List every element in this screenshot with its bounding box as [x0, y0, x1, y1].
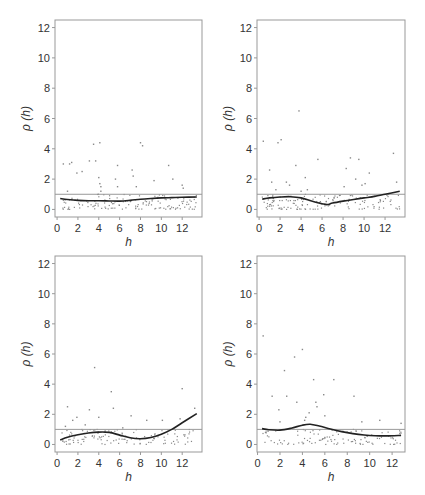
data-point [93, 144, 94, 145]
data-point [362, 201, 363, 202]
plot-frame [257, 256, 405, 452]
data-point [146, 201, 147, 202]
data-point [367, 206, 368, 207]
data-point [355, 178, 356, 179]
data-point [286, 181, 287, 182]
data-point [387, 196, 388, 197]
data-point [184, 436, 185, 437]
data-point [71, 162, 72, 163]
data-point [343, 443, 344, 444]
y-tick-label: 12 [240, 258, 252, 270]
x-tick-label: 10 [358, 222, 370, 234]
data-point [92, 206, 93, 207]
data-point [89, 409, 90, 410]
data-point [66, 444, 67, 445]
data-point [305, 430, 306, 431]
data-point [373, 208, 374, 209]
data-point [290, 208, 291, 209]
data-point [273, 200, 274, 201]
data-point [264, 442, 265, 443]
data-point [145, 200, 146, 201]
data-point [140, 443, 141, 444]
data-point [113, 408, 114, 409]
data-point [192, 209, 193, 210]
data-point [390, 199, 391, 200]
data-point [173, 207, 174, 208]
data-point [181, 184, 182, 185]
data-point [152, 440, 153, 441]
data-point [183, 201, 184, 202]
data-point [277, 142, 278, 143]
data-point [282, 443, 283, 444]
y-tick-label: 12 [240, 22, 252, 34]
data-point [158, 201, 159, 202]
data-point [348, 206, 349, 207]
data-point [323, 438, 324, 439]
data-point [128, 204, 129, 205]
data-point [81, 444, 82, 445]
data-point [105, 208, 106, 209]
data-point [328, 198, 329, 199]
data-point [293, 200, 294, 201]
x-tick-label: 12 [176, 222, 188, 234]
data-point [184, 434, 185, 435]
data-point [294, 356, 295, 357]
data-point [300, 191, 301, 192]
data-point [69, 163, 70, 164]
data-point [109, 195, 110, 196]
data-point [393, 444, 394, 445]
data-point [350, 195, 351, 196]
data-point [347, 203, 348, 204]
y-tick-label: 6 [246, 113, 252, 125]
data-point [286, 209, 287, 210]
data-point [282, 200, 283, 201]
data-point [358, 159, 359, 160]
data-point [137, 206, 138, 207]
data-point [99, 142, 100, 143]
data-point [317, 205, 318, 206]
data-point [326, 201, 327, 202]
y-tick-label: 4 [44, 378, 50, 390]
data-point [175, 430, 176, 431]
x-tick-label: 6 [117, 222, 123, 234]
data-point [87, 206, 88, 207]
data-point [126, 442, 127, 443]
data-point [290, 200, 291, 201]
data-point [162, 420, 163, 421]
data-point [184, 207, 185, 208]
data-point [395, 440, 396, 441]
x-tick-label: 12 [176, 457, 188, 469]
data-point [350, 157, 351, 158]
data-point [101, 439, 102, 440]
data-point [153, 180, 154, 181]
data-point [103, 436, 104, 437]
figure-canvas: 024681012024681012hρ (h) 024681012024681… [0, 0, 425, 495]
data-point [79, 204, 80, 205]
data-point [393, 438, 394, 439]
data-point [186, 204, 187, 205]
data-point [73, 440, 74, 441]
data-point [304, 196, 305, 197]
data-point [79, 207, 80, 208]
data-point [68, 443, 69, 444]
data-point [189, 208, 190, 209]
data-point [170, 199, 171, 200]
data-point [63, 200, 64, 201]
x-tick-label: 8 [340, 222, 346, 234]
data-point [85, 437, 86, 438]
y-tick-label: 8 [44, 318, 50, 330]
data-point [117, 165, 118, 166]
data-point [268, 199, 269, 200]
data-point [92, 435, 93, 436]
data-point [269, 204, 270, 205]
data-point [320, 440, 321, 441]
data-point [65, 202, 66, 203]
data-point [262, 335, 263, 336]
data-point [67, 406, 68, 407]
plot-frame [55, 20, 202, 217]
data-point [98, 205, 99, 206]
data-point [394, 444, 395, 445]
data-point [390, 204, 391, 205]
data-point [327, 441, 328, 442]
data-point [307, 440, 308, 441]
